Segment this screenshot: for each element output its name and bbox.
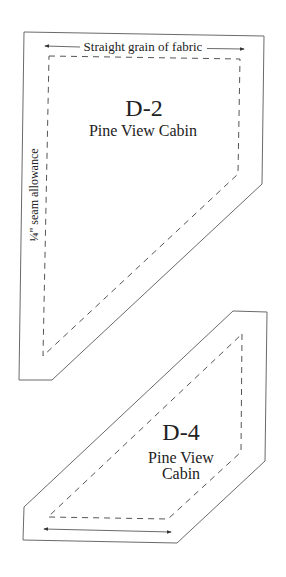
d2-grain-arrow-right <box>207 49 244 50</box>
d4-name-line2: Cabin <box>162 465 200 482</box>
d4-cut-line <box>23 311 267 543</box>
grain-label: Straight grain of fabric <box>84 39 203 54</box>
d2-grain-arrow-left <box>45 46 80 47</box>
piece-d4: D-4 Pine View Cabin <box>23 311 267 543</box>
d2-name: Pine View Cabin <box>89 122 197 139</box>
piece-d2: Straight grain of fabric ¼" seam allowan… <box>19 32 264 380</box>
d2-label: D-2 <box>125 95 162 121</box>
seam-allowance-label: ¼" seam allowance <box>27 148 41 241</box>
d4-grain-arrow-left <box>44 529 108 531</box>
pattern-sheet: Straight grain of fabric ¼" seam allowan… <box>0 0 286 577</box>
d4-name-line1: Pine View <box>148 449 214 466</box>
d2-cut-line <box>19 32 264 380</box>
d4-label: D-4 <box>162 419 199 445</box>
d4-grain-arrow-right <box>108 531 171 533</box>
d4-seam-line <box>48 334 242 519</box>
